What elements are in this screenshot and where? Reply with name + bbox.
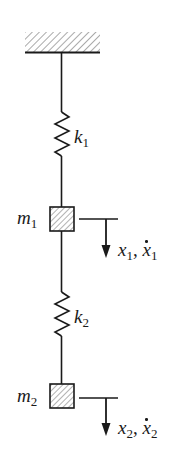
spring-subscript: 2 xyxy=(82,315,89,330)
mass-m1 xyxy=(50,207,74,231)
mass-symbol: m xyxy=(17,207,31,228)
label-x2: x2, x2 xyxy=(118,418,157,440)
velocity-subscript: 1 xyxy=(151,248,158,263)
spring-k1 xyxy=(55,112,69,156)
separator: , xyxy=(133,417,143,438)
separator: , xyxy=(133,239,143,260)
label-m1: m1 xyxy=(17,208,37,230)
spring-subscript: 1 xyxy=(82,135,89,150)
velocity-symbol: x xyxy=(142,418,150,437)
velocity-subscript: 2 xyxy=(151,426,158,441)
fixed-ceiling xyxy=(25,32,100,53)
displacement-arrow-x1 xyxy=(79,219,118,258)
mass-subscript: 2 xyxy=(31,394,38,409)
label-m2: m2 xyxy=(17,386,37,408)
velocity-symbol: x xyxy=(142,240,150,259)
label-k2: k2 xyxy=(74,307,89,329)
mass-m2 xyxy=(50,384,74,408)
spring-k2 xyxy=(55,292,69,336)
displacement-arrow-x2 xyxy=(79,398,118,436)
label-x1: x1, x1 xyxy=(118,240,157,262)
mass-subscript: 1 xyxy=(31,216,38,231)
mass-symbol: m xyxy=(17,385,31,406)
label-k1: k1 xyxy=(74,127,89,149)
